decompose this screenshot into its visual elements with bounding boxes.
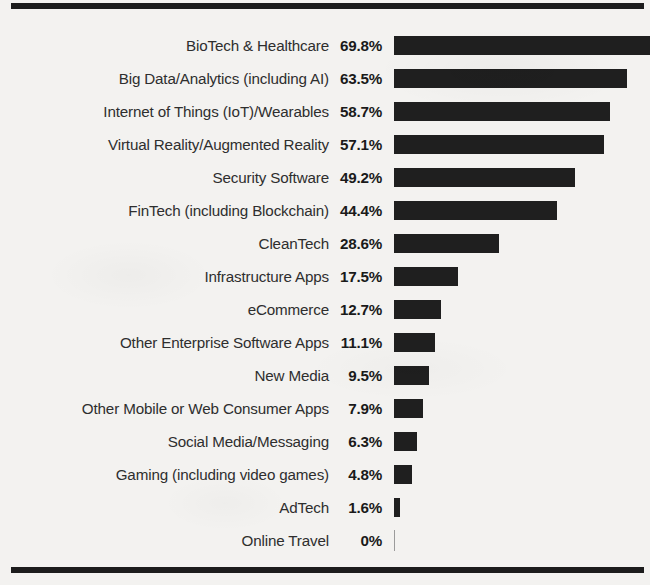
bar [394, 498, 400, 517]
bar [394, 234, 499, 253]
value-label: 11.1% [329, 334, 382, 351]
bar-chart-row: Internet of Things (IoT)/Wearables58.7% [0, 95, 644, 128]
bar [394, 168, 575, 187]
value-label: 28.6% [329, 235, 382, 252]
bar-chart-row: AdTech1.6% [0, 491, 644, 524]
category-label: Internet of Things (IoT)/Wearables [0, 103, 329, 120]
category-label: Virtual Reality/Augmented Reality [0, 136, 329, 153]
category-label: AdTech [0, 499, 329, 516]
bar [394, 267, 458, 286]
category-label: Social Media/Messaging [0, 433, 329, 450]
bar [394, 465, 412, 484]
bar [394, 36, 650, 55]
value-label: 0% [329, 532, 382, 549]
value-label: 9.5% [329, 367, 382, 384]
bar-track [394, 293, 644, 326]
bar-chart-row: CleanTech28.6% [0, 227, 644, 260]
value-label: 63.5% [329, 70, 382, 87]
bar-track [394, 161, 644, 194]
bar [394, 300, 441, 319]
bar-track [394, 95, 644, 128]
bar [394, 69, 627, 88]
bar [394, 102, 610, 121]
bar-chart-row: eCommerce12.7% [0, 293, 644, 326]
bar-track [394, 128, 644, 161]
bar-track [394, 326, 644, 359]
category-label: BioTech & Healthcare [0, 37, 329, 54]
horizontal-rule-top [11, 3, 644, 9]
value-label: 17.5% [329, 268, 382, 285]
horizontal-rule-bottom [11, 567, 644, 573]
bar-chart-row: BioTech & Healthcare69.8% [0, 29, 644, 62]
bar [394, 432, 417, 451]
bar [394, 366, 429, 385]
bar-chart-row: Gaming (including video games)4.8% [0, 458, 644, 491]
bar-track [394, 359, 644, 392]
category-label: Security Software [0, 169, 329, 186]
category-label: FinTech (including Blockchain) [0, 202, 329, 219]
bar [394, 333, 435, 352]
bar-chart-row: Social Media/Messaging6.3% [0, 425, 644, 458]
category-label: Online Travel [0, 532, 329, 549]
category-label: Other Mobile or Web Consumer Apps [0, 400, 329, 417]
value-label: 4.8% [329, 466, 382, 483]
category-label: Big Data/Analytics (including AI) [0, 70, 329, 87]
value-label: 6.3% [329, 433, 382, 450]
bar-chart-row: Other Mobile or Web Consumer Apps7.9% [0, 392, 644, 425]
value-label: 69.8% [329, 37, 382, 54]
bar-track [394, 491, 644, 524]
bar [394, 399, 423, 418]
bar-chart-row: Security Software49.2% [0, 161, 644, 194]
value-label: 44.4% [329, 202, 382, 219]
value-label: 7.9% [329, 400, 382, 417]
value-label: 58.7% [329, 103, 382, 120]
bar-track [394, 227, 644, 260]
bar-chart-row: New Media9.5% [0, 359, 644, 392]
category-label: CleanTech [0, 235, 329, 252]
bar-track [394, 458, 644, 491]
bar-chart-rows: BioTech & Healthcare69.8%Big Data/Analyt… [0, 29, 644, 557]
category-label: New Media [0, 367, 329, 384]
bar-track [394, 62, 644, 95]
bar [394, 530, 395, 551]
category-label: Other Enterprise Software Apps [0, 334, 329, 351]
bar [394, 135, 604, 154]
bar-chart-row: FinTech (including Blockchain)44.4% [0, 194, 644, 227]
bar [394, 201, 557, 220]
value-label: 57.1% [329, 136, 382, 153]
category-label: Infrastructure Apps [0, 268, 329, 285]
bar-track [394, 425, 644, 458]
bar-chart-row: Online Travel0% [0, 524, 644, 557]
value-label: 12.7% [329, 301, 382, 318]
bar-track [394, 260, 644, 293]
bar-chart-row: Big Data/Analytics (including AI)63.5% [0, 62, 644, 95]
category-label: eCommerce [0, 301, 329, 318]
bar-track [394, 524, 644, 557]
bar-track [394, 392, 644, 425]
bar-track [394, 29, 644, 62]
bar-track [394, 194, 644, 227]
bar-chart-row: Infrastructure Apps17.5% [0, 260, 644, 293]
bar-chart-row: Virtual Reality/Augmented Reality57.1% [0, 128, 644, 161]
category-label: Gaming (including video games) [0, 466, 329, 483]
bar-chart-row: Other Enterprise Software Apps11.1% [0, 326, 644, 359]
value-label: 49.2% [329, 169, 382, 186]
value-label: 1.6% [329, 499, 382, 516]
